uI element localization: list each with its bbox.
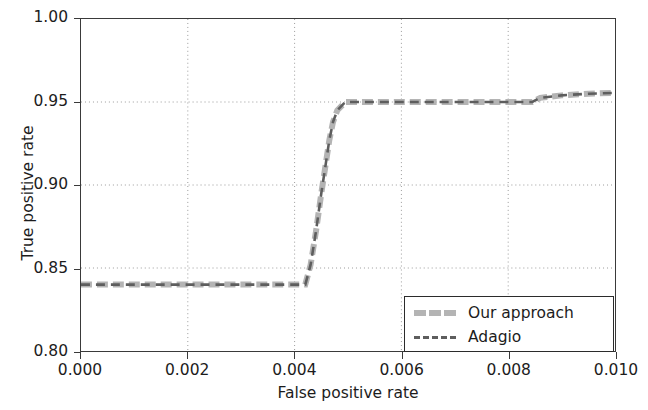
- x-tick-mark: [187, 352, 188, 359]
- x-tick-mark: [509, 352, 510, 359]
- legend-label-adagio: Adagio: [468, 329, 521, 346]
- x-tick-mark: [80, 352, 81, 359]
- legend-box: Our approach Adagio: [404, 296, 614, 352]
- legend-swatch-adagio: [414, 336, 456, 339]
- x-tick-label: 0.002: [147, 363, 227, 379]
- x-tick-label: 0.008: [469, 363, 549, 379]
- roc-chart-figure: 0.800.850.900.951.00 0.0000.0020.0040.00…: [0, 0, 648, 410]
- x-tick-label: 0.004: [254, 363, 334, 379]
- x-tick-mark: [402, 352, 403, 359]
- legend-label-our-approach: Our approach: [468, 305, 574, 322]
- x-tick-mark: [616, 352, 617, 359]
- x-tick-mark: [294, 352, 295, 359]
- x-tick-label: 0.006: [362, 363, 442, 379]
- x-tick-label: 0.000: [40, 363, 120, 379]
- legend-entry-adagio: Adagio: [405, 325, 613, 349]
- legend-swatch-our-approach: [414, 310, 456, 316]
- legend-entry-our-approach: Our approach: [405, 301, 613, 325]
- series-line-adagio: [81, 93, 615, 285]
- x-tick-label: 0.010: [576, 363, 648, 379]
- x-axis-title: False positive rate: [80, 385, 616, 401]
- series-line-our-approach: [81, 93, 615, 285]
- y-axis-title: True positive rate: [20, 83, 36, 303]
